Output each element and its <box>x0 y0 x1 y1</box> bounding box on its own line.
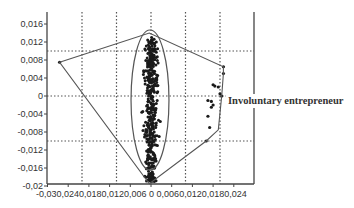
data-point <box>147 111 150 114</box>
data-point-outlier <box>210 106 213 109</box>
data-point <box>150 63 153 66</box>
data-point <box>151 140 154 143</box>
data-point <box>149 122 152 125</box>
data-point-outlier <box>206 115 209 118</box>
data-point <box>156 144 159 147</box>
data-points <box>58 36 225 183</box>
data-point <box>151 80 154 83</box>
data-point-outlier <box>206 99 209 102</box>
data-point <box>148 47 151 50</box>
data-point <box>156 99 159 102</box>
data-point <box>154 160 157 163</box>
data-point <box>144 83 147 86</box>
data-point <box>153 54 156 57</box>
y-tick-label: -0,004 <box>17 109 43 119</box>
data-point <box>142 124 145 127</box>
data-point-outlier <box>213 85 216 88</box>
axis-ticks <box>44 24 234 187</box>
data-point <box>152 105 155 108</box>
data-point <box>150 52 153 55</box>
data-point <box>151 84 154 87</box>
data-point <box>156 74 159 77</box>
y-tick-label: 0,004 <box>20 73 43 83</box>
data-point-outlier <box>208 126 211 129</box>
data-point <box>153 155 156 158</box>
y-tick-label: -0,008 <box>17 127 43 137</box>
data-point <box>146 56 149 59</box>
data-point <box>144 49 147 52</box>
data-point <box>156 55 159 58</box>
data-point <box>146 39 149 42</box>
data-point <box>149 149 152 152</box>
data-point <box>147 98 150 101</box>
data-point <box>141 110 144 113</box>
data-point <box>150 162 153 165</box>
data-point <box>152 88 155 91</box>
data-point <box>156 59 159 62</box>
data-point <box>151 45 154 48</box>
x-axis-tick-labels: -0,030,0240,0180,0120,006 0 0,0060,0120,… <box>36 189 247 199</box>
data-point <box>150 165 153 168</box>
y-tick-label: -0,012 <box>17 145 43 155</box>
data-point <box>144 121 147 124</box>
scatter-chart: 0,0160,0120,0080,0040-0,004-0,008-0,012-… <box>0 0 354 208</box>
data-point <box>149 119 152 122</box>
y-tick-label: 0,012 <box>20 37 43 47</box>
data-point <box>148 60 151 63</box>
data-point <box>146 108 149 111</box>
data-point <box>147 125 150 128</box>
data-point <box>142 129 145 132</box>
data-point <box>150 42 153 45</box>
data-point <box>150 108 153 111</box>
data-point <box>152 42 155 45</box>
data-point <box>146 158 149 161</box>
data-point <box>155 124 158 127</box>
annotation-involuntary-entrepreneur: Involuntary entrepreneur <box>228 95 344 106</box>
data-point <box>151 133 154 136</box>
overlays <box>60 30 224 184</box>
data-point <box>153 70 156 73</box>
data-point <box>153 50 156 53</box>
data-point <box>153 114 156 117</box>
data-point <box>145 105 148 108</box>
data-point <box>145 45 148 48</box>
data-point <box>147 70 150 73</box>
data-point <box>148 85 151 88</box>
data-point <box>153 131 156 134</box>
data-point <box>150 97 153 100</box>
data-point <box>149 156 152 159</box>
data-point <box>150 136 153 139</box>
y-axis-tick-labels: 0,0160,0120,0080,0040-0,004-0,008-0,012-… <box>17 19 43 191</box>
data-point <box>144 130 147 133</box>
data-point <box>155 107 158 110</box>
data-point <box>145 149 148 152</box>
data-point <box>154 138 157 141</box>
data-point <box>147 138 150 141</box>
data-point <box>155 102 158 105</box>
data-point <box>151 126 154 129</box>
data-point <box>156 84 159 87</box>
data-point-outlier <box>217 85 220 88</box>
data-point <box>156 91 159 94</box>
data-point <box>146 134 149 137</box>
data-point <box>153 135 156 138</box>
y-tick-label: 0,016 <box>20 19 43 29</box>
data-point <box>146 76 149 79</box>
data-point <box>144 79 147 82</box>
data-point <box>148 93 151 96</box>
data-point <box>151 38 154 41</box>
data-point <box>148 143 151 146</box>
data-point <box>153 58 156 61</box>
data-point <box>143 77 146 80</box>
data-point <box>154 111 157 114</box>
data-point <box>142 73 145 76</box>
y-tick-label: -0,016 <box>17 163 43 173</box>
y-tick-label: 0,008 <box>20 55 43 65</box>
data-point <box>150 74 153 77</box>
data-point <box>151 173 154 176</box>
x-tick-labels: -0,030,0240,0180,0120,006 0 0,0060,0120,… <box>36 189 247 199</box>
convex-hull <box>60 33 224 184</box>
data-point-outlier <box>210 100 213 103</box>
data-point <box>149 115 152 118</box>
data-point <box>159 120 162 123</box>
